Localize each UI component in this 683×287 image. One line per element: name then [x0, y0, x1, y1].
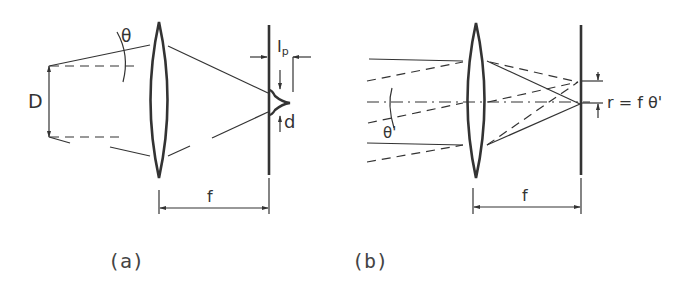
lens-a	[151, 22, 168, 178]
ray-out-top-b	[487, 61, 580, 104]
tilted-ray-out-top	[490, 62, 578, 82]
ray-out-bottom-b	[487, 104, 580, 145]
ray-in-bottom-b	[367, 143, 463, 145]
ray-out-bottom-a-1	[168, 146, 190, 156]
angle-arc-b	[390, 88, 394, 128]
caption-a: (a)	[108, 249, 144, 273]
tilted-ray-in-top	[367, 62, 463, 81]
ray-out-bottom-a-2	[212, 112, 268, 138]
panel-b: θ' r = f θ' f (b)	[352, 23, 662, 273]
tilted-ray-in-mid	[368, 103, 463, 123]
focal-length-label-a: f	[207, 187, 213, 206]
spot-diameter-label: d	[284, 111, 295, 132]
ray-in-top-a	[49, 45, 150, 66]
ray-in-bottom-a-1	[49, 137, 70, 143]
angle-label-b: θ'	[383, 124, 396, 142]
angle-label-a: θ	[121, 26, 131, 46]
ray-out-top-a	[168, 46, 268, 93]
aperture-label: D	[28, 90, 43, 112]
caption-b: (b)	[352, 249, 388, 273]
focal-length-label-b: f	[522, 186, 528, 205]
tilted-ray-in-bottom	[367, 145, 463, 162]
ray-in-bottom-a-2	[110, 147, 150, 156]
panel-a: D θ Ip d f (a)	[28, 22, 311, 273]
ray-in-top-b	[369, 59, 463, 61]
intensity-label: Ip	[277, 37, 289, 58]
lens-b	[468, 23, 485, 178]
radius-formula-label: r = f θ'	[607, 93, 662, 112]
optics-diagram: D θ Ip d f (a)	[0, 0, 683, 287]
tilted-ray-out-bottom	[487, 82, 578, 145]
